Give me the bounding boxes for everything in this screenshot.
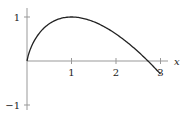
y-tick-label: −1 bbox=[5, 100, 20, 111]
x-axis-label: x bbox=[174, 56, 180, 67]
x-tick-label: 1 bbox=[68, 67, 74, 78]
data-curve bbox=[27, 17, 161, 74]
x-tick-label: 2 bbox=[113, 67, 119, 78]
y-tick-label: 1 bbox=[14, 12, 20, 23]
chart: 1231−1 x bbox=[0, 0, 191, 115]
